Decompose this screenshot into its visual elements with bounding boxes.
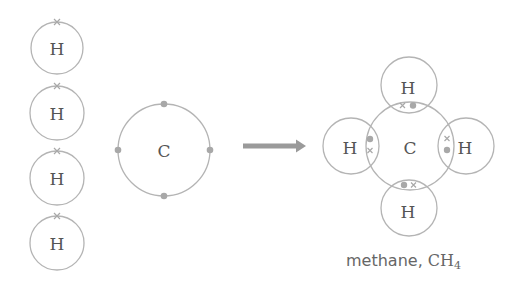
electron-cross-icon — [368, 148, 373, 153]
atom-symbol: H — [50, 169, 65, 189]
chemical-formula: CH4 — [428, 251, 461, 270]
hydrogen-atom-1: H — [31, 19, 83, 74]
atom-symbol: H — [50, 39, 65, 59]
electron-dot-icon — [401, 182, 407, 188]
electron-dot-icon — [367, 136, 373, 142]
methane-dot-cross-diagram: H H H H C C H H H H — [0, 0, 522, 286]
hydrogen-symbol-left: H — [343, 138, 358, 158]
reaction-arrow-icon — [243, 140, 306, 153]
electron-cross-icon — [400, 103, 405, 108]
shared-pair-bottom — [401, 182, 416, 188]
electron-dot-icon — [161, 101, 168, 108]
carbon-atom: C — [115, 101, 214, 200]
product-caption: methane, CH4 — [346, 251, 461, 272]
electron-dot-icon — [410, 102, 416, 108]
carbon-symbol: C — [403, 138, 416, 158]
electron-cross-icon — [445, 136, 450, 141]
shared-pair-left — [367, 136, 373, 153]
electron-dot-icon — [161, 193, 168, 200]
compound-name: methane, — [346, 251, 428, 270]
atom-symbol: C — [157, 141, 170, 161]
hydrogen-symbol-bottom: H — [401, 202, 416, 222]
hydrogen-symbol-right: H — [458, 138, 473, 158]
hydrogen-symbol-top: H — [401, 78, 416, 98]
hydrogen-atom-2: H — [30, 83, 84, 140]
hydrogen-atom-4: H — [30, 213, 84, 270]
electron-dot-icon — [444, 147, 450, 153]
atom-symbol: H — [50, 104, 65, 124]
electron-cross-icon — [411, 183, 416, 188]
shared-pair-right — [444, 136, 450, 153]
electron-dot-icon — [115, 147, 122, 154]
electron-dot-icon — [207, 147, 214, 154]
methane-molecule: C H H H H — [323, 57, 494, 236]
hydrogen-atom-3: H — [30, 148, 84, 205]
atom-symbol: H — [50, 234, 65, 254]
